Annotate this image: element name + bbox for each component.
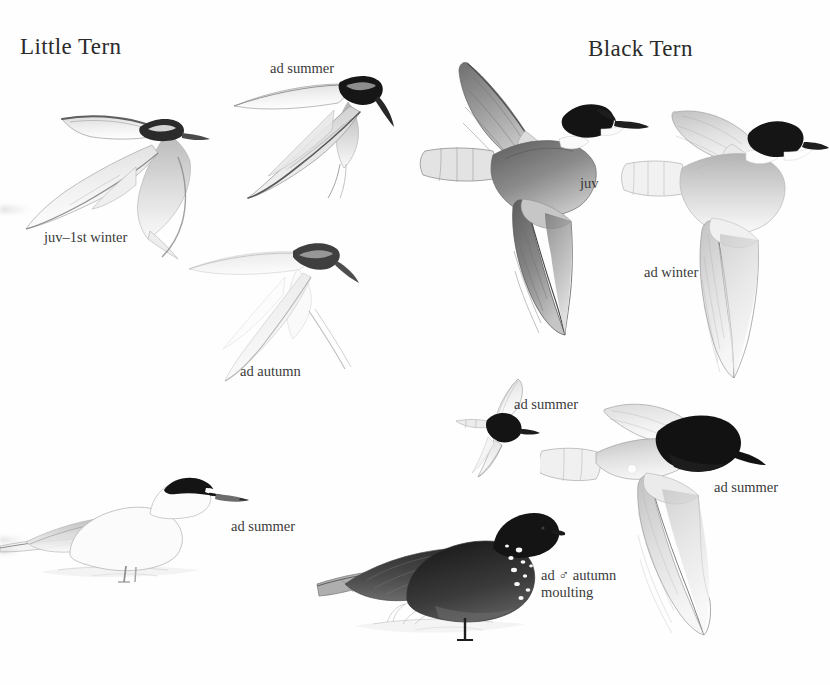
figure-black-tern-juvenile-flight (415, 55, 650, 355)
figure-little-tern-adult-summer-flight (228, 72, 418, 202)
figure-black-tern-adult-male-autumn-moulting-standing (315, 500, 565, 650)
caption-little-tern-adult-summer-flight: ad summer (270, 60, 334, 77)
caption-black-tern-adult-summer-small: ad summer (514, 396, 578, 413)
caption-line-1: ad ♂ autumn (541, 567, 616, 584)
caption-little-tern-adult-summer-standing: ad summer (231, 518, 295, 535)
figure-black-tern-adult-summer-flight (540, 395, 790, 645)
caption-little-tern-adult-autumn: ad autumn (240, 363, 301, 380)
caption-black-tern-adult-winter: ad winter (644, 264, 698, 281)
tern-identification-plate: Little Tern Black Tern (0, 0, 830, 685)
figure-black-tern-adult-winter-flight (620, 100, 830, 390)
caption-black-tern-adult-male-autumn-moulting: ad ♂ autumn moulting (541, 567, 616, 601)
caption-black-tern-juvenile: juv (580, 175, 599, 192)
caption-little-tern-juvenile-first-winter: juv–1st winter (44, 229, 127, 246)
species-title-little-tern: Little Tern (20, 34, 121, 60)
caption-line-2: moulting (541, 584, 616, 601)
caption-black-tern-adult-summer-large: ad summer (714, 479, 778, 496)
figure-little-tern-adult-summer-standing (0, 450, 250, 590)
